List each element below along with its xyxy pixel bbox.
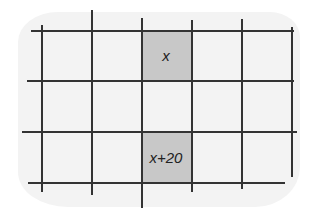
- grid-line-v2: [91, 10, 93, 195]
- grid-line-v1: [41, 25, 43, 192]
- grid-line-h3: [22, 131, 297, 133]
- grid-line-h4: [28, 182, 285, 184]
- label-x: x: [141, 47, 191, 64]
- grid-line-v5: [241, 19, 243, 189]
- grid-line-v4: [191, 20, 193, 192]
- grid-line-h2: [27, 80, 294, 82]
- grid-line-v6: [291, 27, 293, 177]
- grid-line-h1: [31, 30, 294, 32]
- label-x-plus-20: x+20: [141, 149, 191, 166]
